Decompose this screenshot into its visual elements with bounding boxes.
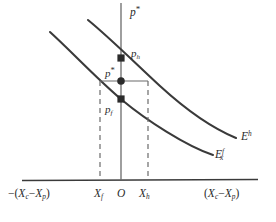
tick-xh-base: X <box>139 187 146 199</box>
tick-origin-base: O <box>117 187 125 199</box>
economics-diagram: p* ph p* pf Eh Efx −(Xc−Xp) Xf O Xh (Xc−… <box>0 0 276 222</box>
marker-point-pstar <box>117 77 125 85</box>
label-point-pstar: p* <box>105 68 115 79</box>
tick-label-xf: Xf <box>94 188 103 200</box>
tick-xf-sub: f <box>101 192 103 201</box>
label-ph-sub: h <box>137 53 141 61</box>
tick-label-origin: O <box>117 188 125 200</box>
curve-home-excess-demand <box>88 20 236 138</box>
label-curve-foreign: Efx <box>215 149 223 161</box>
label-Eh-base: E <box>241 130 248 142</box>
quantity-axis-line <box>22 180 258 181</box>
axis-right-base1: X <box>208 187 215 199</box>
price-axis-label-star: * <box>136 4 140 14</box>
axis-left-close-paren: ) <box>46 187 50 199</box>
price-axis-label: p* <box>130 7 140 19</box>
tick-xh-sub: h <box>146 192 150 201</box>
axis-right-base2: X <box>225 187 232 199</box>
label-pf-sub: f <box>111 109 113 117</box>
marker-point-ph <box>117 54 124 61</box>
tick-xf-base: X <box>94 187 101 199</box>
label-curve-home: Eh <box>241 131 252 143</box>
axis-right-close-paren: ) <box>235 187 239 199</box>
label-Exf-sub: x <box>220 153 223 162</box>
marker-point-pf <box>117 95 124 102</box>
axis-label-left: −(Xc−Xp) <box>8 188 50 200</box>
label-point-pf: pf <box>105 104 112 115</box>
label-Eh-sup: h <box>248 129 252 138</box>
tick-label-xh: Xh <box>139 188 150 200</box>
label-point-ph: ph <box>131 48 140 59</box>
label-pstar-star: * <box>111 65 115 75</box>
axis-label-right: (Xc−Xp) <box>204 188 239 200</box>
